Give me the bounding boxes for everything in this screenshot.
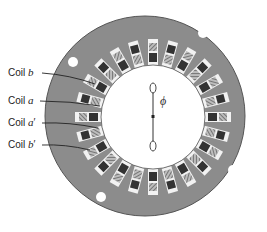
mounting-hole bbox=[198, 28, 208, 38]
stator-slot bbox=[205, 112, 231, 122]
mounting-hole bbox=[228, 165, 238, 175]
stator-diagram: Coil b Coil a Coil a′ Coil b′ ϕ bbox=[0, 0, 267, 232]
stator-drawing bbox=[0, 0, 267, 232]
stator-slot bbox=[75, 112, 101, 122]
label-coil-b-prime: Coil b′ bbox=[8, 138, 35, 150]
label-coil-b: Coil b bbox=[8, 66, 34, 78]
mounting-hole bbox=[96, 192, 106, 202]
mounting-hole bbox=[68, 57, 78, 67]
stator-slot bbox=[148, 169, 158, 195]
label-coil-a: Coil a bbox=[8, 94, 34, 106]
stator-slot bbox=[148, 39, 158, 65]
flux-symbol: ϕ bbox=[160, 94, 166, 109]
label-coil-a-prime: Coil a′ bbox=[8, 116, 35, 128]
